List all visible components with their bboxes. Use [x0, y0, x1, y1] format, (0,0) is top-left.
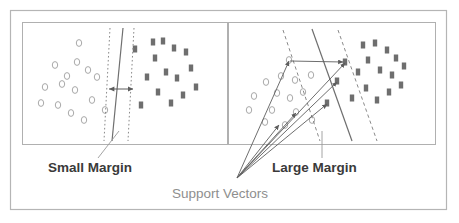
square-marker — [153, 55, 157, 62]
square-marker — [350, 95, 354, 102]
support-vectors-label: Support Vectors — [172, 186, 268, 201]
square-marker — [172, 45, 176, 52]
square-marker — [399, 82, 403, 89]
small-margin-label: Small Margin — [48, 160, 132, 175]
square-marker — [366, 57, 370, 64]
square-marker — [373, 40, 377, 47]
svm-diagram-canvas: Small Margin Large Margin Support Vector… — [0, 0, 459, 223]
svm-margin-figure: Small Margin Large Margin Support Vector… — [0, 0, 459, 223]
square-marker — [169, 100, 173, 107]
square-marker — [189, 65, 193, 72]
square-marker — [390, 72, 394, 79]
square-marker — [402, 63, 406, 70]
square-marker — [184, 49, 188, 56]
square-marker — [139, 102, 143, 109]
square-marker — [175, 75, 179, 82]
square-marker — [375, 97, 379, 104]
square-marker — [394, 55, 398, 62]
square-marker-support — [133, 46, 137, 53]
large-margin-label: Large Margin — [272, 160, 357, 175]
square-marker — [164, 69, 168, 76]
small-margin-panel — [23, 23, 228, 145]
square-marker — [181, 92, 185, 99]
square-marker — [385, 47, 389, 54]
square-marker — [387, 89, 391, 96]
square-marker — [194, 84, 198, 91]
square-marker — [364, 85, 368, 92]
square-marker — [151, 39, 155, 46]
square-marker — [361, 42, 365, 49]
square-marker — [378, 67, 382, 74]
square-marker — [156, 89, 160, 96]
square-marker — [145, 74, 149, 81]
square-marker — [356, 69, 360, 76]
square-marker — [161, 38, 165, 45]
